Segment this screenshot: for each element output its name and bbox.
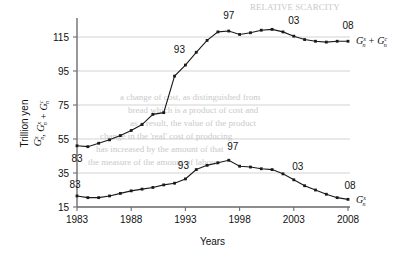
y-axis-title: Trillion yenGxn, Gxn + Gcn — [19, 100, 50, 148]
data-point-marker — [173, 182, 176, 185]
series-line-Gx_n + Gc_n — [77, 29, 348, 146]
data-point-marker — [108, 195, 111, 198]
data-point-marker — [292, 178, 295, 181]
data-point-marker — [206, 164, 209, 167]
point-annotation: 83 — [71, 153, 83, 164]
y-tick-label: 95 — [58, 66, 70, 77]
data-point-marker — [86, 196, 89, 199]
y-axis-title-formula: Gxn, Gxn + Gcn — [32, 100, 50, 146]
data-point-marker — [108, 138, 111, 141]
data-point-marker — [303, 38, 306, 41]
data-point-marker — [238, 33, 241, 36]
data-point-marker — [217, 161, 220, 164]
y-tick-label: 115 — [53, 32, 69, 43]
y-tick-label: 15 — [58, 202, 70, 213]
point-annotation: 08 — [344, 180, 356, 191]
data-point-marker — [282, 172, 285, 175]
data-point-marker — [347, 198, 350, 201]
x-axis-tick-labels: 198319881993199820032008 — [66, 214, 360, 225]
data-point-marker — [336, 196, 339, 199]
grid-lines — [77, 37, 350, 207]
data-point-marker — [260, 167, 263, 170]
data-point-marker — [151, 113, 154, 116]
legend-subscript: n — [384, 42, 387, 48]
data-point-marker — [97, 142, 100, 145]
data-point-marker — [271, 28, 274, 31]
series-end-label: Gxn + Gcn — [356, 35, 387, 48]
data-point-marker — [260, 29, 263, 32]
data-point-marker — [195, 51, 198, 54]
point-annotation: 03 — [288, 15, 300, 26]
data-point-marker — [76, 144, 79, 147]
data-point-marker — [151, 186, 154, 189]
point-annotation: 97 — [227, 141, 239, 152]
x-tick-label: 1993 — [174, 214, 197, 225]
x-axis-title: Years — [200, 236, 225, 247]
y-tick-label: 75 — [58, 100, 70, 111]
y-tick-label: 55 — [58, 134, 70, 145]
data-point-marker — [206, 39, 209, 42]
data-point-marker — [238, 165, 241, 168]
series-end-label: Gxn — [356, 194, 366, 207]
y-tick-label: 35 — [58, 168, 70, 179]
data-point-marker — [162, 184, 165, 187]
x-tick-label: 2008 — [337, 214, 360, 225]
data-point-marker — [227, 30, 230, 33]
formula-plus: + — [38, 111, 49, 123]
data-point-marker — [195, 168, 198, 171]
data-point-marker — [130, 189, 133, 192]
series-line-Gx_n — [77, 160, 348, 199]
data-point-marker — [97, 196, 100, 199]
data-point-marker — [76, 195, 79, 198]
y-axis-title-units: Trillion yen — [19, 100, 30, 148]
data-point-marker — [141, 188, 144, 191]
data-point-marker — [217, 31, 220, 34]
data-point-marker — [227, 159, 230, 162]
chart-figure: RELATIVE SCARCITYa change of cost, as di… — [0, 0, 407, 260]
data-point-marker — [314, 189, 317, 192]
data-point-marker — [282, 31, 285, 34]
x-tick-label: 1983 — [66, 214, 89, 225]
data-point-marker — [141, 123, 144, 126]
x-tick-label: 1998 — [228, 214, 251, 225]
data-point-marker — [119, 192, 122, 195]
point-annotation: 83 — [69, 179, 81, 190]
data-point-marker — [325, 41, 328, 44]
data-point-marker — [184, 64, 187, 67]
data-point-marker — [184, 178, 187, 181]
line-chart: 1535557595115 198319881993199820032008 8… — [0, 0, 407, 260]
data-point-marker — [347, 40, 350, 43]
data-point-marker — [119, 134, 122, 137]
y-axis-tick-labels: 1535557595115 — [53, 32, 69, 213]
data-point-marker — [249, 31, 252, 34]
data-point-marker — [303, 184, 306, 187]
data-point-marker — [249, 166, 252, 169]
x-tick-label: 2003 — [283, 214, 306, 225]
series-legend-layer: Gxn + Gcn Gxn — [356, 35, 387, 207]
plus-sign: + — [368, 35, 377, 46]
x-tick-label: 1988 — [120, 214, 143, 225]
data-point-marker — [336, 40, 339, 43]
point-annotation: 03 — [292, 161, 304, 172]
data-point-marker — [292, 35, 295, 38]
data-point-marker — [173, 75, 176, 78]
data-point-marker — [325, 193, 328, 196]
point-annotation: 93 — [178, 160, 190, 171]
point-annotation: 93 — [174, 44, 186, 55]
point-annotation: 97 — [223, 10, 235, 21]
legend-subscript: n — [363, 201, 366, 207]
data-point-marker — [162, 111, 165, 114]
data-point-marker — [130, 129, 133, 132]
data-series-layer — [76, 28, 350, 201]
data-point-marker — [86, 145, 89, 148]
point-annotation: 08 — [342, 20, 354, 31]
data-point-marker — [271, 168, 274, 171]
formula-subscript: n — [44, 101, 50, 104]
data-point-marker — [314, 40, 317, 43]
